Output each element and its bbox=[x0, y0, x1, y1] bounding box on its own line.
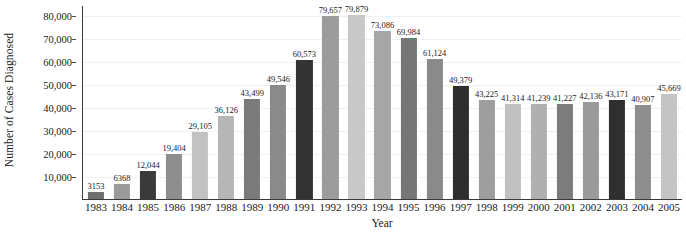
bar-group[interactable]: 49,379 bbox=[448, 6, 474, 199]
bar[interactable] bbox=[218, 116, 234, 199]
y-tick-mark bbox=[72, 62, 76, 63]
x-tick-label: 1992 bbox=[319, 201, 341, 213]
bar[interactable] bbox=[557, 104, 573, 199]
bar[interactable] bbox=[348, 15, 364, 199]
y-tick-mark bbox=[72, 131, 76, 132]
x-tick-label: 1991 bbox=[293, 201, 315, 213]
y-tick-label: 30,000 bbox=[43, 126, 72, 137]
x-tick-label: 2003 bbox=[606, 201, 628, 213]
x-tick-label: 1987 bbox=[189, 201, 211, 213]
x-tick-label: 1997 bbox=[450, 201, 472, 213]
y-tick-mark bbox=[72, 16, 76, 17]
bar[interactable] bbox=[140, 171, 156, 199]
bar[interactable] bbox=[374, 31, 390, 199]
bar-group[interactable]: 43,171 bbox=[604, 6, 630, 199]
bar-value-label: 41,227 bbox=[553, 93, 576, 103]
bar[interactable] bbox=[505, 104, 521, 199]
bar-group[interactable]: 3153 bbox=[83, 6, 109, 199]
bar-group[interactable]: 60,573 bbox=[291, 6, 317, 199]
y-tick-mark bbox=[72, 154, 76, 155]
x-tick-label: 1996 bbox=[424, 201, 446, 213]
bar[interactable] bbox=[244, 99, 260, 199]
x-tick-label: 1985 bbox=[137, 201, 159, 213]
bar-group[interactable]: 61,124 bbox=[422, 6, 448, 199]
bar-chart: Number of Cases Diagnosed 10,00020,00030… bbox=[0, 0, 686, 236]
bar-value-label: 40,907 bbox=[631, 94, 654, 104]
bar-group[interactable]: 69,984 bbox=[396, 6, 422, 199]
y-tick-mark bbox=[72, 85, 76, 86]
bar[interactable] bbox=[270, 85, 286, 199]
bar-group[interactable]: 41,239 bbox=[526, 6, 552, 199]
bar-value-label: 41,239 bbox=[527, 93, 550, 103]
bar-group[interactable]: 41,227 bbox=[552, 6, 578, 199]
bar-group[interactable]: 40,907 bbox=[630, 6, 656, 199]
bar-group[interactable]: 45,669 bbox=[656, 6, 682, 199]
bar-group[interactable]: 73,086 bbox=[369, 6, 395, 199]
x-axis-title: Year bbox=[82, 217, 682, 229]
bar[interactable] bbox=[322, 16, 338, 199]
y-tick-label: 10,000 bbox=[43, 172, 72, 183]
y-tick-label: 70,000 bbox=[43, 34, 72, 45]
x-tick-label: 1983 bbox=[85, 201, 107, 213]
x-tick-label: 2005 bbox=[658, 201, 680, 213]
bar[interactable] bbox=[583, 102, 599, 199]
bar-value-label: 69,984 bbox=[397, 27, 420, 37]
bar[interactable] bbox=[166, 154, 182, 199]
y-tick-label: 20,000 bbox=[43, 149, 72, 160]
bar[interactable] bbox=[661, 94, 677, 199]
bar[interactable] bbox=[427, 59, 443, 199]
bars-layer: 3153636812,04419,40429,10536,12643,49949… bbox=[83, 6, 682, 199]
plot-area: 3153636812,04419,40429,10536,12643,49949… bbox=[82, 6, 682, 200]
y-axis-title-label: Number of Cases Diagnosed bbox=[3, 33, 15, 167]
bar-group[interactable]: 36,126 bbox=[213, 6, 239, 199]
y-tick-label: 50,000 bbox=[43, 80, 72, 91]
x-tick-label: 2002 bbox=[580, 201, 602, 213]
x-tick-label: 1995 bbox=[398, 201, 420, 213]
bar-group[interactable]: 49,546 bbox=[265, 6, 291, 199]
y-tick-label: 60,000 bbox=[43, 57, 72, 68]
bar[interactable] bbox=[531, 104, 547, 199]
bar-group[interactable]: 6368 bbox=[109, 6, 135, 199]
bar-value-label: 49,379 bbox=[449, 75, 472, 85]
x-tick-label: 1990 bbox=[267, 201, 289, 213]
bar-group[interactable]: 19,404 bbox=[161, 6, 187, 199]
bar[interactable] bbox=[453, 86, 469, 199]
bar-value-label: 79,657 bbox=[319, 5, 342, 15]
y-tick-mark bbox=[72, 39, 76, 40]
y-tick-label: 80,000 bbox=[43, 11, 72, 22]
bar-value-label: 60,573 bbox=[293, 49, 316, 59]
bar-group[interactable]: 29,105 bbox=[187, 6, 213, 199]
bar[interactable] bbox=[609, 100, 625, 199]
y-tick-mark bbox=[72, 177, 76, 178]
y-tick-label: 40,000 bbox=[43, 103, 72, 114]
bar[interactable] bbox=[88, 192, 104, 199]
x-axis-line bbox=[82, 199, 682, 200]
bar-value-label: 61,124 bbox=[423, 48, 446, 58]
x-axis-tick-labels: 1983198419851986198719881989199019911992… bbox=[82, 201, 682, 217]
x-tick-label: 1993 bbox=[345, 201, 367, 213]
x-tick-label: 1998 bbox=[476, 201, 498, 213]
bar-group[interactable]: 43,499 bbox=[239, 6, 265, 199]
bar-group[interactable]: 79,657 bbox=[317, 6, 343, 199]
bar-group[interactable]: 42,136 bbox=[578, 6, 604, 199]
bar-group[interactable]: 41,314 bbox=[500, 6, 526, 199]
x-tick-label: 1989 bbox=[241, 201, 263, 213]
bar-group[interactable]: 43,225 bbox=[474, 6, 500, 199]
x-tick-label: 2001 bbox=[554, 201, 576, 213]
bar-value-label: 12,044 bbox=[136, 160, 159, 170]
bar-group[interactable]: 12,044 bbox=[135, 6, 161, 199]
bar-value-label: 36,126 bbox=[215, 105, 238, 115]
bar-value-label: 43,171 bbox=[605, 89, 628, 99]
bar[interactable] bbox=[635, 105, 651, 199]
bar[interactable] bbox=[479, 100, 495, 199]
bar[interactable] bbox=[114, 184, 130, 199]
bar-group[interactable]: 79,879 bbox=[343, 6, 369, 199]
bar[interactable] bbox=[192, 132, 208, 199]
x-tick-label: 1984 bbox=[111, 201, 133, 213]
bar[interactable] bbox=[400, 38, 416, 199]
bar-value-label: 79,879 bbox=[345, 4, 368, 14]
bar-value-label: 42,136 bbox=[579, 91, 602, 101]
bar-value-label: 49,546 bbox=[267, 74, 290, 84]
bar[interactable] bbox=[296, 60, 312, 199]
y-axis-title: Number of Cases Diagnosed bbox=[0, 0, 18, 200]
